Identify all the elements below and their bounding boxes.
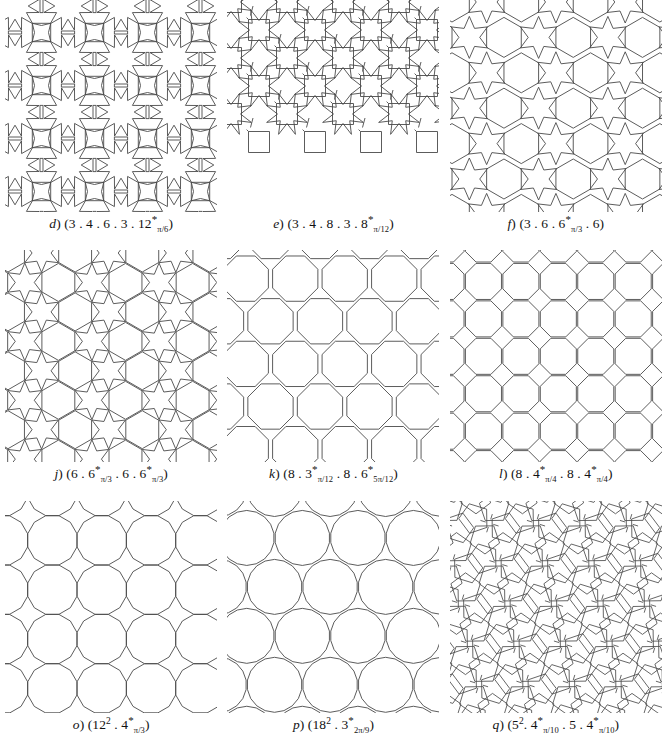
panel-grid: d) (3 . 4 . 6 . 3 . 12*π/6) e) (3 . 4 . … [0,0,667,751]
caption-pre-p: (18 [308,717,326,732]
caption-mid2-q: . 5 . 4 [559,717,594,732]
tiling-k [227,250,439,462]
caption-sub2-j: π/3 [152,474,163,484]
tiling-l [450,250,662,462]
caption-mid-o: . 4 [111,717,128,732]
caption-o: o) (122 . 4*π/3) [73,718,150,732]
panel-j: j) (6 . 6*π/3 . 6 . 6*π/3) [0,250,222,500]
caption-letter-p: p [293,717,300,732]
caption-d: d) (3 . 4 . 6 . 3 . 12*π/6) [49,217,173,231]
tiling-p [227,501,439,713]
caption-sub3-q: π/10 [599,724,615,734]
caption-l: l) (8 . 4*π/4 . 8 . 4*π/4) [499,467,612,481]
caption-star2-o: * [128,713,134,725]
caption-q: q) (52. 4*π/10 . 5 . 4*π/10) [493,718,620,732]
panel-p: p) (182 . 3*2π/9) [222,501,444,751]
tiling-o [5,501,217,713]
caption-pre-l: (8 . 4 [511,466,540,481]
caption-p: p) (182 . 3*2π/9) [293,718,374,732]
caption-f: f) (3 . 6 . 6*π/3 . 6) [508,217,605,231]
caption-mid-p: . 3 [331,717,348,732]
caption-star-j: * [95,463,101,475]
tiling-e [227,0,439,212]
caption-sub2-k: 5π/12 [373,474,393,484]
tiling-f [450,0,662,212]
tiling-d [5,0,217,212]
caption-pre-e: (3 . 4 . 8 . 3 . 8 [287,216,368,231]
caption-sub2-p: 2π/9 [354,724,370,734]
caption-post-f: . 6) [582,216,604,231]
caption-pre-j: (6 . 6 [66,466,95,481]
caption-sub2-q: π/10 [543,724,559,734]
caption-post-e: ) [389,216,394,231]
panel-e: e) (3 . 4 . 8 . 3 . 8*π/12) [222,0,444,250]
caption-star-e: * [368,213,374,225]
caption-sub2-l: π/4 [597,474,608,484]
caption-sub-j: π/3 [101,474,112,484]
caption-sub-d: π/6 [157,224,168,234]
caption-post-q: ) [615,717,620,732]
caption-post-k: ) [393,466,398,481]
caption-star-d: * [152,213,158,225]
caption-mid-j: . 6 . 6 [112,466,147,481]
panel-d: d) (3 . 4 . 6 . 3 . 12*π/6) [0,0,222,250]
caption-sub-k: π/12 [318,474,334,484]
tiling-q [450,501,662,713]
caption-k: k) (8 . 3*π/12 . 8 . 6*5π/12) [269,467,398,481]
panel-o: o) (122 . 4*π/3) [0,501,222,751]
caption-star-f: * [565,213,571,225]
caption-j: j) (6 . 6*π/3 . 6 . 6*π/3) [54,467,167,481]
caption-e: e) (3 . 4 . 8 . 3 . 8*π/12) [273,217,394,231]
caption-mid-q: . 4 [524,717,538,732]
caption-mid-l: . 8 . 4 [557,466,592,481]
caption-post-d: ) [168,216,173,231]
panel-k: k) (8 . 3*π/12 . 8 . 6*5π/12) [222,250,444,500]
tiling-j [5,250,217,462]
caption-pre-f: (3 . 6 . 6 [519,216,565,231]
caption-pre-q: (5 [507,717,518,732]
caption-sub-l: π/4 [545,474,556,484]
figure-sheet: d) (3 . 4 . 6 . 3 . 12*π/6) e) (3 . 4 . … [0,0,667,751]
panel-f: f) (3 . 6 . 6*π/3 . 6) [445,0,667,250]
caption-star2-l: * [591,463,597,475]
caption-post-j: ) [163,466,168,481]
caption-sub-f: π/3 [571,224,582,234]
caption-pre-d: (3 . 4 . 6 . 3 . 12 [64,216,151,231]
caption-post-l: ) [608,466,613,481]
panel-l: l) (8 . 4*π/4 . 8 . 4*π/4) [445,250,667,500]
caption-sub-e: π/12 [374,224,390,234]
caption-pre-k: (8 . 3 [283,466,312,481]
caption-letter-o: o [73,717,80,732]
caption-pre-o: (12 [88,717,106,732]
caption-post-o: ) [145,717,150,732]
caption-sub2-o: π/3 [134,724,145,734]
caption-mid-k: . 8 . 6 [333,466,368,481]
panel-q: q) (52. 4*π/10 . 5 . 4*π/10) [445,501,667,751]
caption-star-k: * [312,463,318,475]
caption-post-p: ) [369,717,374,732]
